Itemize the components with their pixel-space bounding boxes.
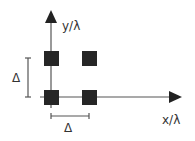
element-top-right xyxy=(82,51,97,66)
element-bottom-left xyxy=(44,90,59,105)
y-axis-label: y/λ xyxy=(62,20,80,32)
vertical-spacing-label: Δ xyxy=(12,72,20,84)
element-bottom-right xyxy=(82,90,97,105)
horizontal-spacing-label: Δ xyxy=(64,122,72,134)
vertical-spacing-bar xyxy=(25,58,31,97)
element-top-left xyxy=(44,51,59,66)
x-axis-label: x/λ xyxy=(162,114,180,126)
y-axis-arrowhead xyxy=(45,10,57,23)
x-axis-arrowhead xyxy=(169,91,182,103)
horizontal-spacing-bar xyxy=(51,113,89,119)
